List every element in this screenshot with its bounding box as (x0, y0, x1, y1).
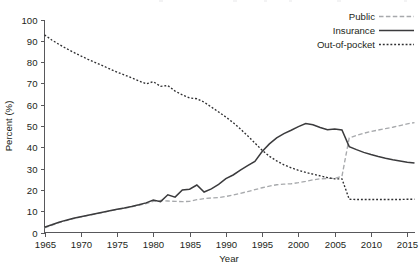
x-axis-tick-labels: 1965197019751980198519901995200020052010… (35, 239, 418, 250)
chart-legend: Public Insurance Out-of-pocket (317, 11, 414, 50)
x-tick-label: 1985 (180, 239, 201, 250)
legend-item-out-of-pocket: Out-of-pocket (317, 39, 414, 50)
x-tick-label: 1970 (71, 239, 92, 250)
data-series-group (45, 35, 415, 228)
legend-item-public: Public (349, 11, 414, 22)
y-tick-label: 100 (21, 15, 37, 26)
x-tick-label: 1990 (216, 239, 237, 250)
x-axis-title: Year (219, 253, 239, 264)
y-tick-label: 90 (27, 36, 38, 47)
y-tick-label: 70 (27, 78, 38, 89)
chart-figure: 0102030405060708090100 Percent (%) 19651… (0, 0, 420, 266)
y-tick-label: 20 (27, 185, 38, 196)
y-axis-tick-labels: 0102030405060708090100 (21, 15, 37, 239)
series-line-insurance (45, 123, 415, 227)
x-axis-ticks (46, 233, 408, 237)
y-tick-label: 40 (27, 142, 38, 153)
x-tick-label: 2015 (397, 239, 418, 250)
x-tick-label: 2000 (288, 239, 309, 250)
y-axis: 0102030405060708090100 Percent (%) (3, 15, 45, 239)
x-tick-label: 1980 (143, 239, 164, 250)
y-tick-label: 80 (27, 57, 38, 68)
x-tick-label: 1965 (35, 239, 56, 250)
x-tick-label: 1995 (252, 239, 273, 250)
legend-label-insurance: Insurance (333, 25, 375, 36)
series-line-out-of-pocket (45, 35, 415, 200)
y-tick-label: 30 (27, 164, 38, 175)
legend-item-insurance: Insurance (333, 25, 414, 36)
y-tick-label: 60 (27, 100, 38, 111)
y-axis-ticks (41, 21, 45, 234)
legend-label-out-of-pocket: Out-of-pocket (317, 39, 375, 50)
x-tick-label: 2010 (361, 239, 382, 250)
y-axis-title: Percent (%) (3, 101, 14, 152)
y-tick-label: 0 (32, 228, 37, 239)
x-tick-label: 2005 (325, 239, 346, 250)
line-chart: 0102030405060708090100 Percent (%) 19651… (0, 0, 420, 266)
y-tick-label: 50 (27, 121, 38, 132)
legend-label-public: Public (349, 11, 375, 22)
x-axis: 1965197019751980198519901995200020052010… (35, 233, 418, 265)
x-tick-label: 1975 (107, 239, 128, 250)
cropped-title-artifact (159, 0, 407, 2)
y-tick-label: 10 (27, 206, 38, 217)
